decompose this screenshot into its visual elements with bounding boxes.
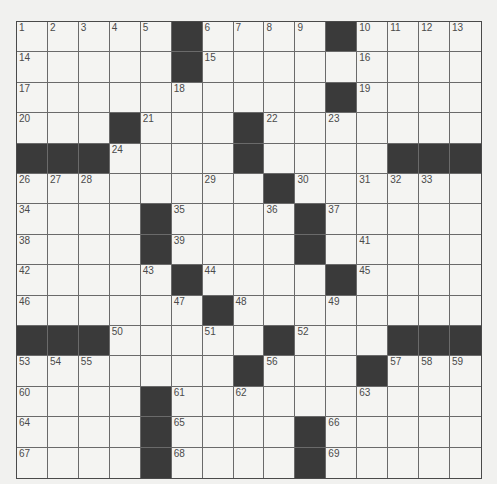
grid-cell[interactable] xyxy=(172,326,203,356)
grid-cell[interactable] xyxy=(79,235,110,265)
grid-cell[interactable] xyxy=(79,417,110,447)
grid-cell[interactable]: 64 xyxy=(17,417,48,447)
grid-cell[interactable] xyxy=(48,52,79,82)
grid-cell[interactable] xyxy=(357,417,388,447)
grid-cell[interactable] xyxy=(110,387,141,417)
grid-cell[interactable]: 43 xyxy=(141,265,172,295)
grid-cell[interactable] xyxy=(234,52,265,82)
grid-cell[interactable]: 6 xyxy=(203,22,234,52)
grid-cell[interactable] xyxy=(79,113,110,143)
grid-cell[interactable] xyxy=(264,387,295,417)
grid-cell[interactable] xyxy=(48,448,79,478)
grid-cell[interactable]: 9 xyxy=(295,22,326,52)
grid-cell[interactable] xyxy=(357,204,388,234)
grid-cell[interactable]: 67 xyxy=(17,448,48,478)
grid-cell[interactable] xyxy=(388,204,419,234)
grid-cell[interactable] xyxy=(264,265,295,295)
grid-cell[interactable] xyxy=(264,296,295,326)
grid-cell[interactable]: 38 xyxy=(17,235,48,265)
grid-cell[interactable] xyxy=(141,52,172,82)
grid-cell[interactable] xyxy=(234,83,265,113)
grid-cell[interactable] xyxy=(141,174,172,204)
grid-cell[interactable] xyxy=(79,204,110,234)
grid-cell[interactable] xyxy=(388,296,419,326)
grid-cell[interactable] xyxy=(234,174,265,204)
grid-cell[interactable]: 13 xyxy=(450,22,481,52)
grid-cell[interactable] xyxy=(357,144,388,174)
grid-cell[interactable] xyxy=(295,387,326,417)
grid-cell[interactable] xyxy=(450,235,481,265)
grid-cell[interactable] xyxy=(203,417,234,447)
grid-cell[interactable] xyxy=(234,265,265,295)
grid-cell[interactable] xyxy=(357,326,388,356)
grid-cell[interactable] xyxy=(141,356,172,386)
grid-cell[interactable]: 11 xyxy=(388,22,419,52)
grid-cell[interactable] xyxy=(326,387,357,417)
grid-cell[interactable] xyxy=(450,448,481,478)
grid-cell[interactable]: 7 xyxy=(234,22,265,52)
grid-cell[interactable]: 49 xyxy=(326,296,357,326)
grid-cell[interactable] xyxy=(450,204,481,234)
grid-cell[interactable] xyxy=(48,296,79,326)
grid-cell[interactable]: 69 xyxy=(326,448,357,478)
grid-cell[interactable] xyxy=(295,52,326,82)
grid-cell[interactable]: 53 xyxy=(17,356,48,386)
grid-cell[interactable]: 35 xyxy=(172,204,203,234)
grid-cell[interactable] xyxy=(326,326,357,356)
grid-cell[interactable] xyxy=(110,356,141,386)
grid-cell[interactable] xyxy=(388,83,419,113)
grid-cell[interactable] xyxy=(388,265,419,295)
grid-cell[interactable] xyxy=(419,52,450,82)
grid-cell[interactable]: 14 xyxy=(17,52,48,82)
grid-cell[interactable] xyxy=(357,296,388,326)
grid-cell[interactable] xyxy=(48,417,79,447)
grid-cell[interactable] xyxy=(295,265,326,295)
grid-cell[interactable]: 54 xyxy=(48,356,79,386)
grid-cell[interactable]: 32 xyxy=(388,174,419,204)
grid-cell[interactable] xyxy=(388,448,419,478)
grid-cell[interactable] xyxy=(419,448,450,478)
grid-cell[interactable] xyxy=(110,83,141,113)
grid-cell[interactable] xyxy=(172,113,203,143)
grid-cell[interactable] xyxy=(141,296,172,326)
grid-cell[interactable]: 61 xyxy=(172,387,203,417)
grid-cell[interactable]: 58 xyxy=(419,356,450,386)
grid-cell[interactable]: 28 xyxy=(79,174,110,204)
grid-cell[interactable] xyxy=(48,83,79,113)
grid-cell[interactable] xyxy=(450,265,481,295)
grid-cell[interactable] xyxy=(79,52,110,82)
grid-cell[interactable]: 57 xyxy=(388,356,419,386)
grid-cell[interactable] xyxy=(388,113,419,143)
grid-cell[interactable]: 55 xyxy=(79,356,110,386)
grid-cell[interactable] xyxy=(172,144,203,174)
grid-cell[interactable] xyxy=(203,144,234,174)
grid-cell[interactable] xyxy=(450,296,481,326)
grid-cell[interactable] xyxy=(450,174,481,204)
grid-cell[interactable] xyxy=(326,235,357,265)
grid-cell[interactable]: 59 xyxy=(450,356,481,386)
grid-cell[interactable] xyxy=(419,387,450,417)
grid-cell[interactable] xyxy=(110,52,141,82)
grid-cell[interactable] xyxy=(110,235,141,265)
grid-cell[interactable] xyxy=(234,326,265,356)
grid-cell[interactable] xyxy=(141,83,172,113)
grid-cell[interactable]: 4 xyxy=(110,22,141,52)
grid-cell[interactable] xyxy=(295,356,326,386)
grid-cell[interactable] xyxy=(234,235,265,265)
grid-cell[interactable] xyxy=(48,204,79,234)
grid-cell[interactable] xyxy=(203,204,234,234)
grid-cell[interactable] xyxy=(450,52,481,82)
grid-cell[interactable]: 30 xyxy=(295,174,326,204)
grid-cell[interactable] xyxy=(203,356,234,386)
grid-cell[interactable] xyxy=(264,144,295,174)
grid-cell[interactable]: 2 xyxy=(48,22,79,52)
grid-cell[interactable] xyxy=(264,235,295,265)
grid-cell[interactable]: 21 xyxy=(141,113,172,143)
grid-cell[interactable]: 44 xyxy=(203,265,234,295)
grid-cell[interactable]: 33 xyxy=(419,174,450,204)
grid-cell[interactable] xyxy=(419,204,450,234)
grid-cell[interactable] xyxy=(110,204,141,234)
grid-cell[interactable] xyxy=(234,204,265,234)
grid-cell[interactable]: 10 xyxy=(357,22,388,52)
grid-cell[interactable] xyxy=(388,235,419,265)
